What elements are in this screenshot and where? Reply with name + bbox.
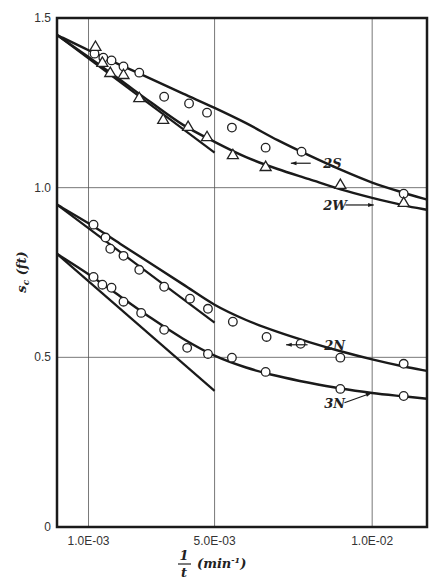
circle-marker-2n xyxy=(119,252,128,261)
circle-marker-2s xyxy=(203,108,212,117)
arrow-head-icon xyxy=(366,393,372,397)
series-label-2n: 2N xyxy=(323,338,346,353)
circle-marker-2n xyxy=(135,265,144,274)
triangle-marker-2w xyxy=(118,69,129,78)
circle-marker-2n xyxy=(89,220,98,229)
circle-marker-2s xyxy=(185,99,194,108)
x-axis-label-numerator: 1 xyxy=(179,548,188,563)
circle-marker-3n xyxy=(204,350,213,359)
circle-marker-2n xyxy=(106,244,115,253)
arrow-head-icon xyxy=(291,161,297,165)
plot-frame xyxy=(57,18,427,527)
x-axis-label: 1 t (min-1) xyxy=(178,548,246,580)
circle-marker-2n xyxy=(186,294,195,303)
circle-marker-2n xyxy=(101,233,110,242)
tangent-line xyxy=(57,254,215,391)
x-tick-label: 5.0E-03 xyxy=(194,534,236,548)
svg-text:sc (ft): sc (ft) xyxy=(14,251,31,292)
y-tick-label: 1.5 xyxy=(34,11,51,25)
triangle-marker-2w xyxy=(335,179,346,188)
tangent-lines xyxy=(57,35,215,391)
series-label-2w: 2W xyxy=(322,198,348,213)
x-tick-label: 1.0E-02 xyxy=(351,534,393,548)
y-axis-label: sc (ft) xyxy=(14,251,31,292)
arrow-head-icon xyxy=(286,343,292,347)
tangent-line xyxy=(57,205,215,323)
x-axis-label-unit: (min-1) xyxy=(197,555,246,571)
circle-marker-2s xyxy=(107,56,116,65)
circle-marker-2n xyxy=(336,353,345,362)
circle-marker-2n xyxy=(229,317,238,326)
x-axis-label-denominator: t xyxy=(181,565,187,580)
curve-3n xyxy=(57,254,427,399)
circle-marker-3n xyxy=(399,392,408,401)
x-tick-labels: 1.0E-035.0E-031.0E-02 xyxy=(68,534,394,548)
circle-marker-2s xyxy=(228,123,237,132)
circle-marker-3n xyxy=(137,309,146,318)
arrow-head-icon xyxy=(368,203,374,207)
circle-marker-2n xyxy=(296,339,305,348)
y-tick-labels: 00.51.01.5 xyxy=(34,11,51,534)
chart: 2S2W2N3N 00.51.01.5 1.0E-035.0E-031.0E-0… xyxy=(0,0,444,588)
circle-marker-3n xyxy=(119,297,128,306)
triangle-marker-2w xyxy=(398,197,409,206)
circle-marker-3n xyxy=(89,273,98,282)
triangle-marker-2w xyxy=(90,41,101,50)
gridlines xyxy=(57,18,427,527)
circle-marker-2s xyxy=(135,68,144,77)
circle-marker-2s xyxy=(297,147,306,156)
circle-marker-2n xyxy=(262,333,271,342)
circle-marker-2s xyxy=(160,92,169,101)
circle-marker-3n xyxy=(336,385,345,394)
y-tick-label: 0.5 xyxy=(34,350,51,364)
fitted-curves xyxy=(57,35,427,399)
circle-marker-2n xyxy=(204,305,213,314)
circle-marker-3n xyxy=(98,280,107,289)
circle-marker-3n xyxy=(261,368,270,377)
circle-marker-3n xyxy=(107,283,116,292)
circle-marker-3n xyxy=(228,353,237,362)
y-axis-label-unit: (ft) xyxy=(14,251,29,279)
circle-marker-3n xyxy=(160,326,169,335)
series-label-3n: 3N xyxy=(324,396,346,411)
y-tick-label: 1.0 xyxy=(34,181,51,195)
circle-marker-2n xyxy=(160,282,169,291)
x-tick-label: 1.0E-03 xyxy=(68,534,110,548)
y-tick-label: 0 xyxy=(44,520,51,534)
circle-marker-3n xyxy=(183,344,192,353)
circle-marker-2s xyxy=(261,143,270,152)
series-label-2s: 2S xyxy=(322,156,341,171)
circle-marker-2n xyxy=(399,359,408,368)
data-markers xyxy=(89,41,409,400)
